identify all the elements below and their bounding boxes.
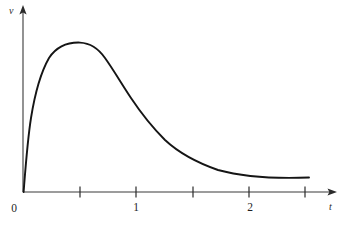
x-tick-label-2: 2 xyxy=(247,201,253,213)
y-axis-label: v xyxy=(9,5,14,16)
plot-svg: v t 0 1 2 xyxy=(0,0,343,229)
graph-figure: v t 0 1 2 xyxy=(0,0,343,229)
x-tick-label-1: 1 xyxy=(133,201,139,213)
velocity-curve xyxy=(24,43,309,192)
x-axis-label: t xyxy=(329,201,332,212)
origin-label: 0 xyxy=(11,202,17,214)
